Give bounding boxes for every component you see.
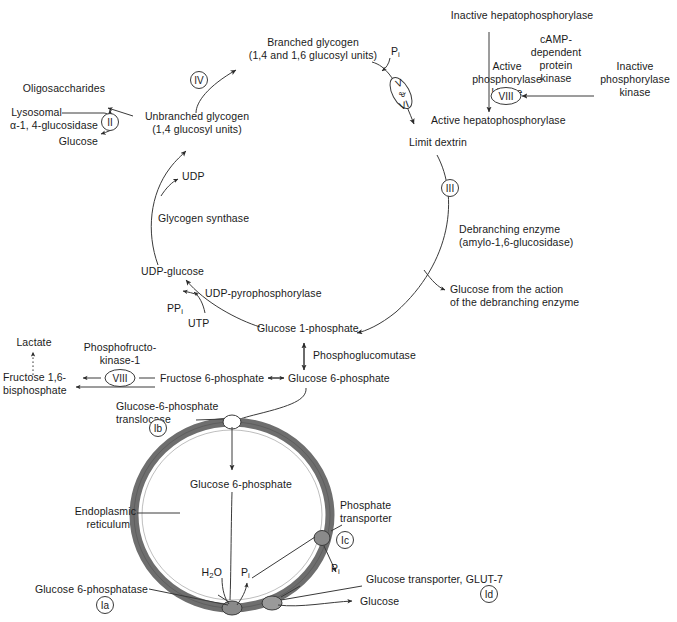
label-glucose-transporter-glut7: Glucose transporter, GLUT-7	[366, 573, 503, 586]
label-limit-dextrin: Limit dextrin	[409, 136, 467, 149]
label-inactive-phosphorylase-kinase-line3: kinase	[620, 86, 651, 99]
label-debranching-enzyme-line2: (amylo-1,6-glucosidase)	[459, 236, 573, 249]
label-utp: UTP	[188, 317, 209, 330]
marker-iv-text: IV	[194, 75, 203, 86]
label-glucose-1-phosphate: Glucose 1-phosphate	[257, 322, 359, 335]
label-glucose-from-debranching-line2: of the debranching enzyme	[450, 296, 579, 309]
label-camp-kinase-line4: kinase	[541, 72, 572, 85]
label-active-hepatophosphorylase: Active hepatophosphorylase	[431, 114, 566, 127]
arrow-lumen-g6p-to-phosphatase	[230, 492, 232, 600]
arrow-pi-to-phosphorylase	[382, 58, 390, 71]
label-ppi-subscript: i	[181, 307, 183, 316]
label-translocase-line2: translocase	[116, 413, 171, 426]
label-unbranched-glycogen-line2: (1,4 glucosyl units)	[152, 123, 242, 136]
label-ppi: PPi	[167, 302, 183, 318]
label-glucose-6-phosphatase: Glucose 6-phosphatase	[35, 583, 148, 596]
label-glycogen-synthase: Glycogen synthase	[158, 212, 249, 225]
label-branched-glycogen-line1: Branched glycogen	[267, 36, 359, 49]
arrow-udpglucose-to-unbranched	[151, 151, 186, 265]
label-branched-glycogen-line2: (1,4 and 1,6 glucosyl units)	[249, 49, 377, 62]
marker-id-text: Id	[485, 589, 493, 600]
arrow-debranching-glucose	[424, 270, 445, 290]
label-glucose-out: Glucose	[360, 595, 399, 608]
label-active-phosphorylase-kinase-line1: Active	[492, 60, 521, 73]
marker-iii-text: III	[446, 183, 454, 194]
label-inactive-phosphorylase-kinase-line1: Inactive	[616, 60, 653, 73]
label-fructose-6-phosphate: Fructose 6-phosphate	[160, 372, 264, 385]
label-lysosomal-line1: Lysosomal	[11, 106, 62, 119]
pathway-diagram: Lactate (dotted) -->	[0, 0, 677, 622]
label-pi-phosphorylase-subscript: i	[398, 50, 400, 59]
label-water: H2O	[202, 566, 222, 582]
label-pi-lumen-subscript: i	[248, 571, 250, 580]
label-glucose-from-debranching-line1: Glucose from the action	[450, 283, 563, 296]
arrow-to-oligosaccharides	[108, 108, 133, 116]
label-lysosomal-line2: α-1, 4-glucosidase	[10, 119, 98, 132]
label-active-phosphorylase-kinase-line2: phosphorylase	[472, 73, 542, 86]
label-udp-glucose: UDP-glucose	[141, 265, 204, 278]
label-udp-pyrophosphorylase: UDP-pyrophosphorylase	[205, 287, 322, 300]
label-inactive-hepatophosphorylase: Inactive hepatophosphorylase	[451, 9, 593, 22]
label-ppi-text: PP	[167, 302, 181, 314]
arrow-lysosomal-glucose	[101, 127, 116, 134]
label-camp-kinase-line2: dependent	[531, 46, 582, 59]
arrow-pi-lumen-out	[237, 583, 247, 605]
label-phosphoglucomutase: Phosphoglucomutase	[313, 349, 416, 362]
label-translocase-line1: Glucose-6-phosphate	[116, 400, 218, 413]
label-pfk1-line1: Phosphofructo-	[84, 341, 157, 354]
label-debranching-enzyme-line1: Debranching enzyme	[459, 223, 560, 236]
label-endoplasmic-reticulum-line2: reticulum	[86, 518, 130, 531]
label-pi-phosphorylase: Pi	[391, 45, 400, 61]
label-fructose-16-bisphosphate-line1: Fructose 1,6-	[3, 371, 66, 384]
label-phosphate-transporter-line1: Phosphate	[340, 499, 391, 512]
label-inactive-phosphorylase-kinase-line2: phosphorylase	[600, 73, 670, 86]
translocase-pore	[223, 415, 241, 429]
marker-ic-text: Ic	[341, 535, 349, 546]
marker-ii-text: II	[107, 117, 113, 128]
label-oligosaccharides: Oligosaccharides	[23, 82, 105, 95]
label-udp: UDP	[182, 170, 204, 183]
label-endoplasmic-reticulum-line1: Endoplasmic	[75, 505, 136, 518]
label-water-o: O	[214, 566, 222, 578]
glut7-pore	[262, 596, 282, 610]
arrow-glucose-out	[278, 601, 352, 606]
label-phosphate-transporter-line2: transporter	[340, 512, 392, 525]
label-glucose-6-phosphate-cytosol: Glucose 6-phosphate	[288, 372, 390, 385]
label-pfk1-line2: kinase-1	[100, 354, 141, 367]
label-pi-cytosol: Pi	[331, 562, 340, 578]
label-water-h: H	[202, 566, 210, 578]
marker-ib-text: Ib	[154, 423, 162, 434]
marker-viii-kinase-text: VIII	[498, 91, 513, 102]
label-fructose-16-bisphosphate-line2: bisphosphate	[3, 384, 67, 397]
marker-ia-text: Ia	[101, 600, 109, 611]
label-camp-kinase-line1: cAMP-	[540, 33, 572, 46]
label-lactate: Lactate	[16, 336, 51, 349]
arrow-udp-release	[161, 179, 178, 196]
line-lysosomal-enzyme	[62, 113, 110, 118]
phosphate-transporter-pore	[314, 531, 330, 546]
label-camp-kinase-line3: protein	[540, 59, 573, 72]
label-glucose-lysosomal: Glucose	[59, 135, 98, 148]
arrow-branched-to-limit-dextrin	[372, 62, 414, 124]
arrow-g6p-to-translocase	[235, 388, 306, 421]
label-pi-lumen: Pi	[241, 566, 250, 582]
label-unbranched-glycogen-line1: Unbranched glycogen	[145, 110, 249, 123]
arrow-limit-dextrin-to-g1p	[357, 155, 449, 333]
label-pi-cytosol-subscript: i	[338, 567, 340, 576]
arrow-utp-in	[194, 292, 205, 313]
label-lumen-glucose-6-phosphate: Glucose 6-phosphate	[190, 478, 292, 491]
marker-viii-pfk-text: VIII	[112, 373, 127, 384]
